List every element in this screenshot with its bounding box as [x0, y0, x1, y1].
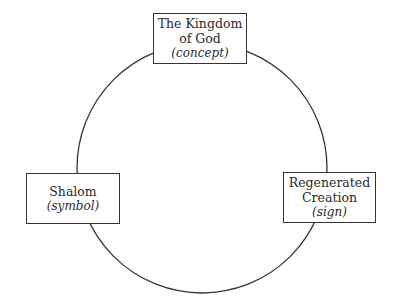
node-kingdom-of-god: The Kingdom of God (concept) [153, 13, 247, 64]
node-title-line: The Kingdom [158, 16, 243, 31]
node-title-line: Creation [302, 190, 357, 205]
cycle-circle [77, 43, 327, 293]
node-qualifier: (sign) [312, 205, 347, 220]
node-title-line: Regenerated [289, 175, 371, 190]
node-qualifier: (symbol) [47, 199, 99, 214]
node-regenerated-creation: Regenerated Creation (sign) [283, 172, 376, 223]
node-qualifier: (concept) [171, 46, 228, 61]
node-title-line: of God [179, 31, 221, 46]
node-shalom: Shalom (symbol) [26, 173, 120, 224]
node-title-line: Shalom [49, 184, 96, 199]
